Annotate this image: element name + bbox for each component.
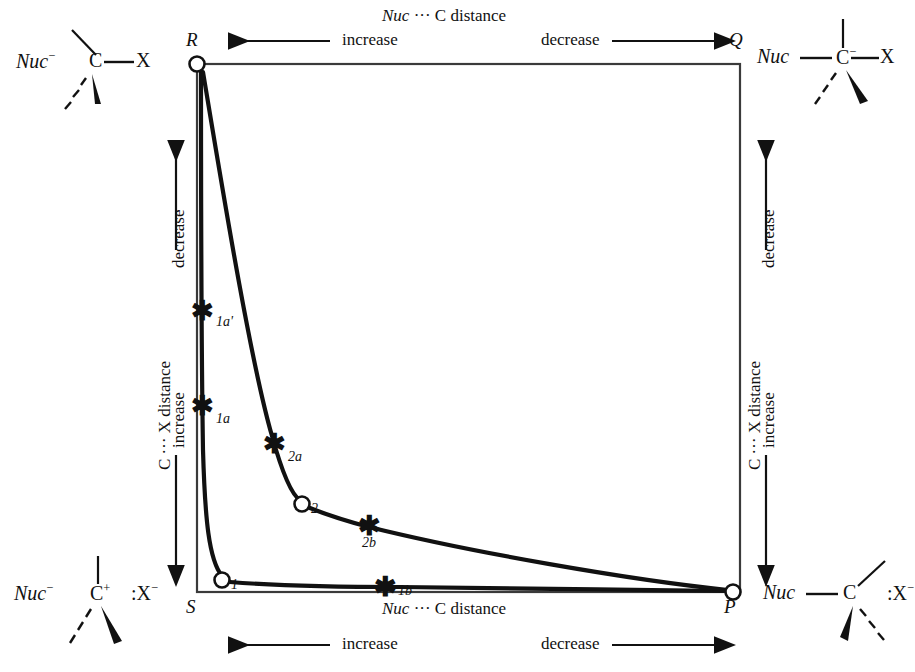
corner-label-Q: Q xyxy=(729,30,743,49)
molecule-bottom-right-nuc: Nuc xyxy=(763,582,795,602)
corner-circle-R xyxy=(190,57,205,72)
bottom-axis-title-rest: ··· C distance xyxy=(414,599,507,618)
right-axis-increase-label: increase xyxy=(760,392,777,448)
diagram-canvas: ✱ ✱ ✱ ✱ ✱ xyxy=(0,0,915,672)
molecule-top-right-center-charge: − xyxy=(849,45,856,59)
molecule-top-right-center: C− xyxy=(836,46,856,67)
molecule-top-left-center: C xyxy=(89,50,102,70)
reaction-path-sn2 xyxy=(203,72,728,590)
marker-label-2b: 2b xyxy=(362,536,376,550)
left-axis-decrease-label: decrease xyxy=(170,209,187,268)
asterisk-1a: ✱ xyxy=(191,391,214,421)
left-axis-increase-label: increase xyxy=(170,392,187,448)
bottom-axis-increase-label: increase xyxy=(342,635,398,652)
molecule-bottom-left-leaving-text: X xyxy=(137,582,151,604)
intermediate-circle-1 xyxy=(215,573,230,588)
molecule-bottom-left-center-text: C xyxy=(90,582,103,604)
molecule-bottom-left-nuc: Nuc− xyxy=(14,582,53,603)
top-axis-title-rest: ··· C distance xyxy=(414,6,507,25)
corner-label-R: R xyxy=(186,30,198,49)
top-axis-increase-label: increase xyxy=(342,31,398,48)
molecule-bottom-right-leaving-text: X xyxy=(893,582,907,604)
marker-label-1a: 1a xyxy=(216,412,230,426)
molecule-top-left-leaving: X xyxy=(136,50,150,70)
asterisk-2a: ✱ xyxy=(263,429,286,459)
marker-label-1: 1 xyxy=(231,578,238,592)
molecule-bottom-left-nuc-text: Nuc xyxy=(14,582,46,604)
marker-label-1b: 1b xyxy=(398,584,412,598)
molecule-bottom-left-center-charge: + xyxy=(103,581,110,595)
marker-label-2a: 2a xyxy=(288,450,302,464)
bottom-axis-decrease-label: decrease xyxy=(541,635,600,652)
top-axis-title: Nuc ··· C distance xyxy=(382,7,506,24)
molecule-top-right-nuc: Nuc xyxy=(757,46,789,66)
corner-label-S: S xyxy=(186,597,196,616)
plot-frame xyxy=(197,64,740,592)
molecule-bottom-left-leaving-charge: − xyxy=(151,581,158,595)
molecule-top-right-nuc-text: Nuc xyxy=(757,45,789,67)
molecule-top-left-nuc-text: Nuc xyxy=(16,50,48,72)
molecule-bottom-right-nuc-text: Nuc xyxy=(763,581,795,603)
marker-label-2: 2 xyxy=(311,502,318,516)
molecule-top-right-leaving: X xyxy=(880,46,894,66)
molecule-top-left-nuc-charge: − xyxy=(48,49,55,63)
marker-label-1a-prime: 1a' xyxy=(216,315,233,329)
molecule-bottom-left-center: C+ xyxy=(90,582,110,603)
molecule-top-left-nuc: Nuc− xyxy=(16,50,55,71)
corner-label-P: P xyxy=(724,597,736,616)
point-markers xyxy=(190,57,741,600)
molecule-bottom-right-center: C xyxy=(843,582,856,602)
top-axis-title-nuc: Nuc xyxy=(382,6,409,25)
asterisk-1a-prime: ✱ xyxy=(191,296,214,326)
bottom-axis-title: Nuc ··· C distance xyxy=(382,600,506,617)
more-ofarrall-jencks-diagram: ✱ ✱ ✱ ✱ ✱ R Q S P Nuc ··· C distance inc… xyxy=(0,0,915,672)
asterisk-1b: ✱ xyxy=(374,572,397,602)
molecule-top-right-center-text: C xyxy=(836,46,849,68)
right-axis-decrease-label: decrease xyxy=(760,209,777,268)
molecule-bottom-left-leaving: :X− xyxy=(131,582,158,603)
reaction-path-sn1 xyxy=(201,70,727,591)
molecule-bottom-right-leaving: :X− xyxy=(887,582,914,603)
molecule-bottom-right-leaving-charge: − xyxy=(907,581,914,595)
molecule-bottom-left-nuc-charge: − xyxy=(46,581,53,595)
bottom-axis-title-nuc: Nuc xyxy=(382,599,409,618)
top-axis-decrease-label: decrease xyxy=(541,31,600,48)
intermediate-circle-2 xyxy=(295,497,310,512)
